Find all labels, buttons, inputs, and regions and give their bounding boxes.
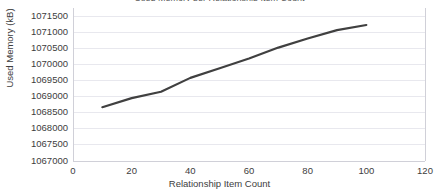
x-tick-label: 100 (346, 165, 386, 176)
chart-container: Used Memory per Relationship Item Count … (0, 0, 439, 196)
x-tick-label: 40 (170, 165, 210, 176)
x-tick-label: 0 (53, 165, 93, 176)
x-tick-label: 80 (288, 165, 328, 176)
x-tick-label: 120 (405, 165, 439, 176)
x-axis-title: Relationship Item Count (0, 178, 439, 189)
x-tick-label: 60 (229, 165, 269, 176)
y-axis-title: Used Memory (kB) (4, 8, 15, 87)
x-tick-label: 20 (112, 165, 152, 176)
x-axis-tick-labels: 020406080100120 (0, 0, 439, 196)
y-axis-title-wrapper: Used Memory (kB) (2, 0, 16, 98)
